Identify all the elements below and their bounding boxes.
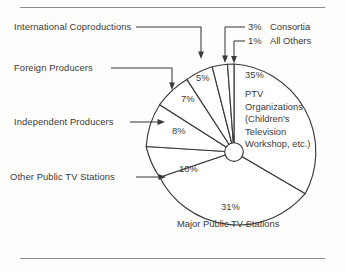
ptv-line-4: Television (245, 126, 310, 138)
callout-consortia: 3%Consortia (248, 21, 310, 32)
slice-value-foreign-producers: 7% (181, 93, 195, 104)
leader-line-foreign-producers (111, 68, 172, 84)
callout-label-foreign-producers: Foreign Producers (14, 62, 93, 74)
pie-chart-figure: International Coproductions Foreign Prod… (0, 0, 345, 272)
callout-consortia-label: Consortia (270, 21, 310, 32)
callout-label-other-public-tv-stations: Other Public TV Stations (10, 171, 115, 183)
ptv-line-2: Organizations (245, 101, 310, 113)
arrowhead-all-others (231, 56, 237, 64)
ptv-line-1: PTV (245, 88, 310, 100)
pie-center-hub (225, 143, 244, 162)
slice-label-major-public-tv-stations: Major Public TV Stations (177, 218, 279, 229)
slice-value-international-coproductions: 5% (196, 72, 210, 83)
arrowhead-consortia (222, 56, 228, 64)
callout-label-international-coproductions: International Coproductions (14, 21, 131, 33)
ptv-line-5: Workshop, etc.) (245, 138, 310, 150)
slice-value-ptv-organizations: 35% (245, 69, 310, 81)
callout-consortia-pct: 3% (248, 21, 270, 32)
slice-value-independent-producers: 8% (172, 125, 186, 136)
slice-value-major-public-tv-stations: 31% (221, 201, 240, 212)
callout-all-others-pct: 1% (248, 35, 270, 46)
slice-value-other-public-tv-stations: 10% (179, 163, 198, 174)
callout-all-others: 1%All Others (248, 35, 311, 46)
callout-all-others-label: All Others (270, 35, 311, 46)
ptv-line-3: (Children's (245, 113, 310, 125)
slice-label-ptv-organizations: 35% PTV Organizations (Children's Televi… (245, 69, 310, 150)
arrowhead-international-coproductions (198, 52, 204, 60)
callout-label-independent-producers: Independent Producers (14, 116, 114, 128)
leader-line-international-coproductions (136, 27, 201, 53)
